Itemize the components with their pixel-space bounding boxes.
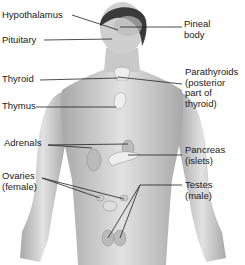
label-thymus: Thymus (2, 101, 36, 112)
kidney-left (87, 149, 101, 171)
right-arm (178, 92, 226, 262)
label-hypothalamus: Hypothalamus (2, 10, 63, 21)
brain (114, 16, 142, 36)
endocrine-diagram: Hypothalamus Pituitary Thyroid Thymus Ad… (0, 0, 245, 265)
label-ovaries: Ovaries (female) (2, 171, 37, 192)
label-pituitary: Pituitary (2, 35, 36, 46)
label-parathyroids: Parathyroids (posterior part of thyroid) (185, 67, 238, 109)
label-pancreas: Pancreas (islets) (185, 145, 225, 166)
label-testes: Testes (male) (185, 180, 212, 201)
uterus (103, 201, 117, 211)
label-thyroid: Thyroid (2, 74, 34, 85)
label-adrenals: Adrenals (4, 138, 42, 149)
label-pineal: Pineal body (184, 19, 210, 40)
